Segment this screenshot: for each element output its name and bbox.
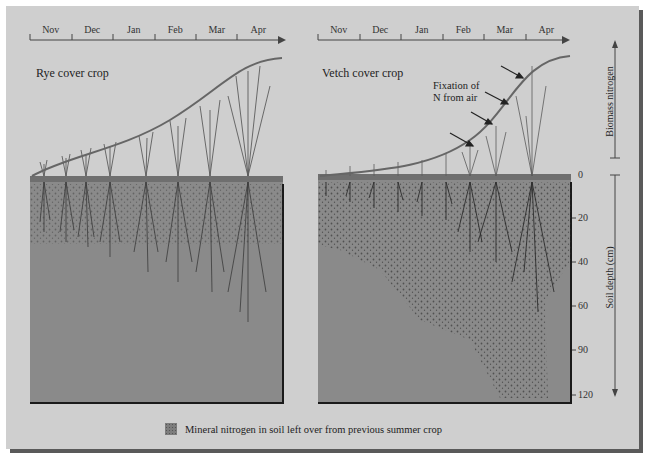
depth-tick-60: 60	[578, 300, 588, 311]
annotation-line-1: Fixation of	[433, 80, 479, 92]
timeline-right-labels: Nov Dec Jan Feb Mar Apr	[318, 24, 568, 35]
depth-tick-40: 40	[578, 256, 588, 267]
biomass-nitrogen-label: Biomass nitrogen	[604, 47, 615, 157]
month-label: Jan	[401, 24, 443, 35]
fixation-annotation: Fixation of N from air	[433, 80, 479, 104]
depth-tick-20: 20	[578, 212, 588, 223]
annotation-line-2: N from air	[433, 92, 479, 104]
month-label: Mar	[196, 24, 238, 35]
rye-soil-block	[30, 58, 284, 403]
month-label: Dec	[72, 24, 114, 35]
legend-text: Mineral nitrogen in soil left over from …	[185, 424, 442, 435]
month-label: Feb	[443, 24, 485, 35]
vetch-panel-title: Vetch cover crop	[322, 66, 403, 81]
nitrogen-fixation-arrows	[450, 66, 523, 146]
depth-tick-90: 90	[578, 344, 588, 355]
month-label: Apr	[526, 24, 568, 35]
month-label: Nov	[318, 24, 360, 35]
month-label: Jan	[113, 24, 155, 35]
rye-panel-title: Rye cover crop	[36, 66, 109, 81]
mineral-nitrogen-swatch-icon	[165, 423, 177, 435]
month-label: Mar	[484, 24, 526, 35]
timeline-left	[30, 34, 286, 44]
depth-tick-120: 120	[578, 389, 593, 400]
month-label: Nov	[30, 24, 72, 35]
timeline-right	[318, 34, 570, 44]
month-label: Apr	[238, 24, 280, 35]
depth-tick-0: 0	[578, 169, 583, 180]
month-label: Dec	[360, 24, 402, 35]
timeline-left-labels: Nov Dec Jan Feb Mar Apr	[30, 24, 280, 35]
vetch-soil-block	[318, 56, 572, 403]
month-label: Feb	[155, 24, 197, 35]
legend: Mineral nitrogen in soil left over from …	[165, 423, 442, 435]
soil-depth-label: Soil depth (cm)	[604, 223, 615, 333]
